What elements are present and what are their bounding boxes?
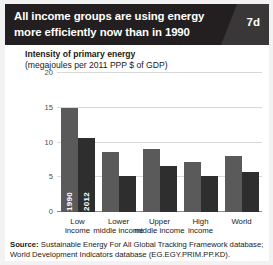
plot-area: 05101520 19902012LowincomeLowermiddle in…: [57, 73, 262, 212]
bars: [98, 73, 139, 212]
y-axis-tick-label: 5: [49, 172, 53, 181]
figure-number-badge: 7d: [247, 16, 260, 28]
bar-groups: 19902012LowincomeLowermiddle incomeUpper…: [57, 73, 262, 212]
bar-2012-lower-middle-income[interactable]: [119, 176, 136, 212]
axis-title-line1: Intensity of primary energy: [25, 49, 168, 60]
bars: [221, 73, 262, 212]
source-label: Source:: [10, 240, 39, 249]
bar-2012-world[interactable]: [242, 172, 259, 212]
bar-group: Uppermiddle income: [139, 73, 180, 212]
y-axis-tick-label: 0: [49, 207, 53, 216]
chart-figure: All income groups are using energy more …: [0, 0, 273, 265]
bar-1990-world[interactable]: [225, 156, 242, 212]
chart-headline: All income groups are using energy more …: [14, 9, 229, 40]
chart-panel: Intensity of primary energy (megajoules …: [5, 45, 269, 261]
bar-group: 19902012Lowincome: [57, 73, 98, 212]
bar-2012-high-income[interactable]: [201, 176, 218, 212]
bar-year-label: 2012: [82, 192, 91, 211]
bar-1990-high-income[interactable]: [184, 162, 201, 212]
bar-2012-low-income[interactable]: 2012: [78, 138, 95, 212]
header-banner: All income groups are using energy more …: [5, 4, 269, 45]
source-text: Sustainable Energy For All Global Tracki…: [10, 240, 263, 259]
y-axis-tick-label: 15: [45, 102, 53, 111]
bar-year-label: 1990: [65, 192, 74, 211]
bar-2012-upper-middle-income[interactable]: [160, 166, 177, 212]
y-axis-tick-label: 10: [45, 137, 53, 146]
x-axis-category-label: World: [215, 217, 268, 226]
bar-group: Highincome: [180, 73, 221, 212]
y-axis-tick-label: 20: [45, 68, 53, 77]
x-axis-category-line: World: [215, 217, 268, 226]
source-note: Source: Sustainable Energy For All Globa…: [10, 240, 266, 260]
bar-group: World: [221, 73, 262, 212]
bar-1990-lower-middle-income[interactable]: [102, 152, 119, 212]
x-axis-category-line: income: [174, 226, 227, 235]
bar-group: Lowermiddle income: [98, 73, 139, 212]
bars: [139, 73, 180, 212]
bars: 19902012: [57, 73, 98, 212]
bars: [180, 73, 221, 212]
bar-1990-upper-middle-income[interactable]: [143, 149, 160, 212]
bar-1990-low-income[interactable]: 1990: [61, 108, 78, 212]
